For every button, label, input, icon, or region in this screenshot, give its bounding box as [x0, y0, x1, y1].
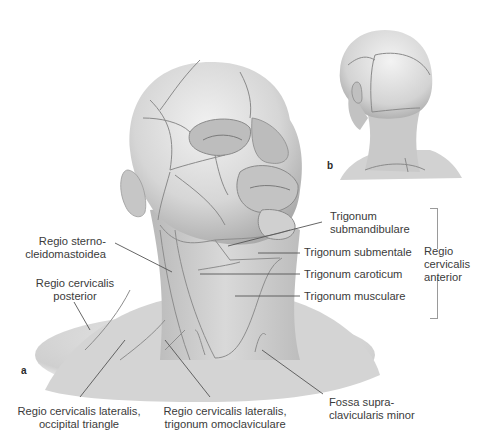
- label-line: Regio: [424, 245, 470, 258]
- regio-anterior-bracket: [437, 208, 438, 249]
- bracket-tick-bottom: [430, 318, 438, 319]
- label-line: Fossa supra-: [329, 396, 415, 409]
- panel-a-figure: [35, 60, 380, 402]
- label-trigonum-submentale: Trigonum submentale: [304, 246, 412, 259]
- label-regio-sternocleidomastoidea: Regio sterno- cleidomastoidea: [14, 235, 106, 261]
- label-line: Regio cervicalis: [30, 277, 120, 290]
- label-trigonum-caroticum: Trigonum caroticum: [304, 268, 402, 281]
- label-line: Trigonum: [330, 210, 410, 223]
- panel-letter-a: a: [21, 365, 27, 376]
- label-line: submandibulare: [330, 223, 410, 236]
- label-line: Regio sterno-: [14, 235, 106, 248]
- label-line: anterior: [424, 271, 470, 284]
- label-regio-cervicalis-lateralis-occipital: Regio cervicalis lateralis, occipital tr…: [14, 405, 144, 431]
- label-line: occipital triangle: [14, 418, 144, 431]
- label-line: trigonum omoclaviculare: [160, 418, 290, 431]
- label-regio-cervicalis-lateralis-omoclaviculare: Regio cervicalis lateralis, trigonum omo…: [160, 405, 290, 431]
- label-line: Regio cervicalis lateralis,: [14, 405, 144, 418]
- label-fossa-supraclavicularis-minor: Fossa supra- clavicularis minor: [329, 396, 415, 422]
- bracket-tick-top: [430, 208, 438, 209]
- anatomical-illustration: [0, 0, 494, 448]
- panel-b-figure: [340, 30, 462, 180]
- label-line: cervicalis: [424, 258, 470, 271]
- label-trigonum-musculare: Trigonum musculare: [304, 290, 406, 303]
- label-line: posterior: [30, 290, 120, 303]
- label-trigonum-submandibulare: Trigonum submandibulare: [330, 210, 410, 236]
- label-line: cleidomastoidea: [14, 248, 106, 261]
- label-regio-cervicalis-posterior: Regio cervicalis posterior: [30, 277, 120, 303]
- label-line: clavicularis minor: [329, 409, 415, 422]
- label-line: Regio cervicalis lateralis,: [160, 405, 290, 418]
- label-regio-cervicalis-anterior: Regio cervicalis anterior: [424, 245, 470, 284]
- panel-letter-b: b: [327, 160, 333, 171]
